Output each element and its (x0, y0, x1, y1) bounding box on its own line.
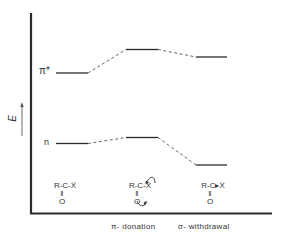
n-connector-2 (158, 138, 196, 166)
structure-top: R-C-Ẍ (121, 182, 159, 190)
n-label: n (44, 138, 49, 147)
structure-pi-donation: R-C-Ẍ ‖ O (121, 182, 159, 206)
caption-pi-donation: π- donation (111, 222, 155, 231)
structure-oxygen: O (40, 198, 84, 206)
y-axis-label: E (8, 115, 17, 122)
structure-oxygen: O (188, 198, 232, 206)
structure-reference: R-C-Ẍ ‖ O (46, 182, 84, 206)
energy-arrow-icon (20, 102, 23, 136)
structure-top: R-C▸Ẍ (194, 182, 232, 190)
caption-sigma-withdrawal: σ- withdrawal (178, 222, 230, 231)
mo-energy-diagram: E π* n R-C-Ẍ ‖ O R-C-Ẍ ‖ O R-C▸Ẍ ‖ O π- … (0, 0, 282, 238)
pi-star-connector-1 (88, 50, 126, 74)
structure-top: R-C-Ẍ (46, 182, 84, 190)
pi-star-connector-2 (158, 50, 196, 58)
n-connector-1 (88, 138, 126, 144)
structure-oxygen: O (115, 198, 159, 206)
structure-sigma-withdrawal: R-C▸Ẍ ‖ O (194, 182, 232, 206)
pi-star-label: π* (39, 66, 50, 75)
